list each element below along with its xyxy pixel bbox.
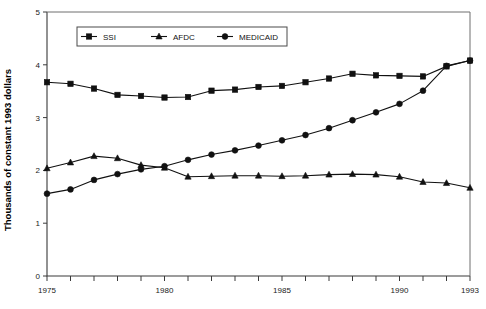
data-point — [350, 71, 355, 76]
data-point — [138, 166, 144, 172]
y-axis-title: Thousands of constant 1993 dollars — [2, 69, 13, 231]
y-axis-ticks: 012345 — [36, 8, 47, 281]
data-point — [350, 117, 356, 123]
legend-label: AFDC — [173, 33, 195, 42]
legend-label: MEDICAID — [239, 33, 278, 42]
y-tick-label: 5 — [36, 8, 41, 17]
x-tick-label: 1993 — [461, 286, 479, 295]
data-point — [303, 80, 308, 85]
x-tick-label: 1980 — [156, 286, 174, 295]
data-point — [326, 76, 331, 81]
data-point — [397, 101, 403, 107]
data-point — [420, 88, 426, 94]
x-axis-ticks: 19751980198519901993 — [38, 276, 479, 295]
data-point — [44, 191, 50, 197]
y-tick-label: 4 — [36, 61, 41, 70]
data-point — [232, 147, 238, 153]
chart-container: 012345 19751980198519901993 SSIAFDCMEDIC… — [0, 0, 486, 309]
data-point — [91, 153, 97, 159]
data-point — [444, 63, 450, 69]
data-point — [303, 132, 309, 138]
series-ssi — [44, 58, 472, 100]
y-tick-label: 2 — [36, 166, 41, 175]
data-point — [68, 81, 73, 86]
data-point — [373, 109, 379, 115]
data-point — [44, 80, 49, 85]
legend-marker-circle — [222, 34, 228, 40]
legend-marker-square — [86, 34, 91, 39]
data-point — [138, 93, 143, 98]
x-tick-label: 1990 — [391, 286, 409, 295]
data-point — [91, 177, 97, 183]
data-point — [326, 125, 332, 131]
y-tick-label: 0 — [36, 272, 41, 281]
legend-label: SSI — [103, 33, 116, 42]
data-point — [115, 92, 120, 97]
data-point — [162, 95, 167, 100]
y-tick-label: 3 — [36, 114, 41, 123]
series-line-ssi — [47, 61, 470, 98]
data-point — [185, 94, 190, 99]
x-tick-label: 1985 — [273, 286, 291, 295]
x-tick-label: 1975 — [38, 286, 56, 295]
data-point — [162, 163, 168, 169]
chart-legend: SSIAFDCMEDICAID — [77, 27, 287, 46]
data-point — [397, 73, 402, 78]
line-chart: 012345 19751980198519901993 SSIAFDCMEDIC… — [0, 0, 486, 309]
series-afdc — [44, 153, 473, 191]
data-point — [68, 187, 74, 193]
data-series-group — [44, 58, 473, 197]
data-point — [256, 143, 262, 149]
data-point — [256, 84, 261, 89]
data-point — [373, 73, 378, 78]
data-point — [185, 157, 191, 163]
y-tick-label: 1 — [36, 219, 41, 228]
data-point — [91, 86, 96, 91]
data-point — [279, 83, 284, 88]
data-point — [420, 74, 425, 79]
data-point — [232, 87, 237, 92]
data-point — [467, 58, 473, 64]
data-point — [115, 171, 121, 177]
data-point — [209, 152, 215, 158]
data-point — [279, 137, 285, 143]
data-point — [209, 88, 214, 93]
